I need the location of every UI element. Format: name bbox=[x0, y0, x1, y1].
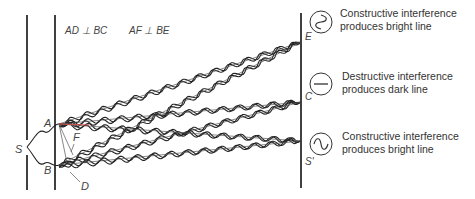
caption-e-line2: produces bright line bbox=[340, 20, 432, 32]
interfering-wave bbox=[59, 43, 300, 167]
label-s-prime: S' bbox=[305, 156, 315, 167]
constructive-wave-icon bbox=[310, 11, 332, 33]
caption-c-line1: Destructive interference bbox=[342, 70, 453, 82]
slit-waves bbox=[59, 42, 301, 168]
label-e: E bbox=[305, 31, 312, 42]
caption-e-line1: Constructive interference bbox=[340, 7, 457, 19]
label-b: B bbox=[44, 164, 51, 176]
caption-sp-line1: Constructive interference bbox=[342, 130, 459, 142]
double-slit-diagram: AD ⊥ BC AF ⊥ BE S A B F D E C S' Constru… bbox=[0, 0, 475, 199]
path-ray bbox=[59, 124, 301, 141]
constructive-wave-icon bbox=[310, 133, 332, 155]
line-ad bbox=[59, 124, 67, 163]
relation-af-be: AF ⊥ BE bbox=[128, 25, 170, 36]
label-f: F bbox=[73, 131, 81, 143]
label-s: S bbox=[15, 143, 23, 155]
arrow-f bbox=[71, 144, 74, 152]
arrow-d bbox=[70, 172, 80, 182]
destructive-flat-icon bbox=[310, 73, 332, 95]
caption-c-line2: produces dark line bbox=[342, 83, 428, 95]
label-d: D bbox=[81, 180, 89, 192]
relation-ad-bc: AD ⊥ BC bbox=[64, 25, 108, 36]
label-c: C bbox=[305, 91, 313, 102]
caption-sp-line2: produces bright line bbox=[342, 143, 434, 155]
line-af bbox=[59, 124, 73, 155]
label-a: A bbox=[43, 117, 51, 129]
